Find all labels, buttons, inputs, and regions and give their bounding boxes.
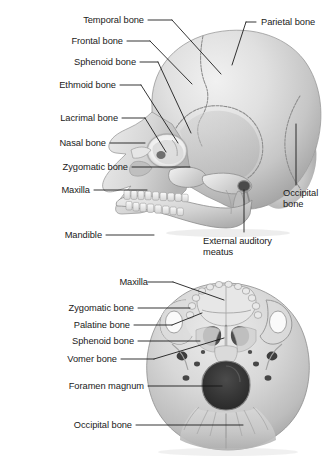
label-palatine-bone: Palatine bone (74, 320, 130, 331)
label-sphenoid-bone-inferior: Sphenoid bone (72, 336, 134, 347)
label-zygomatic-bone: Zygomatic bone (63, 162, 128, 173)
label-external-auditory-meatus: External auditory meatus (203, 236, 303, 257)
label-temporal-bone: Temporal bone (83, 15, 144, 26)
label-maxilla: Maxilla (61, 185, 90, 196)
label-sphenoid-bone: Sphenoid bone (74, 57, 136, 68)
skull-illustration (0, 0, 336, 466)
label-vomer-bone: Vomer bone (67, 354, 117, 365)
label-lacrimal-bone: Lacrimal bone (60, 113, 118, 124)
label-mandible: Mandible (65, 230, 102, 241)
skull-anatomy-figure: Temporal bone Frontal bone Sphenoid bone… (0, 0, 336, 466)
inferior-skull-art (147, 281, 310, 456)
label-frontal-bone: Frontal bone (71, 36, 123, 47)
label-foramen-magnum: Foramen magnum (69, 381, 144, 392)
label-occipital-bone-inferior: Occipital bone (74, 420, 132, 431)
label-ethmoid-bone: Ethmoid bone (59, 80, 116, 91)
label-zygomatic-bone-inferior: Zygomatic bone (69, 303, 134, 314)
label-occipital-bone-lateral: Occipital bone (283, 188, 333, 209)
label-nasal-bone: Nasal bone (59, 138, 106, 149)
label-maxilla-inferior: Maxilla (119, 277, 148, 288)
label-parietal-bone: Parietal bone (261, 17, 315, 28)
